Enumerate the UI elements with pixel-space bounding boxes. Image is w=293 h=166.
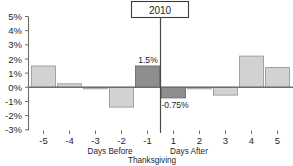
x-axis-label-minus4: -4 — [65, 135, 73, 146]
y-axis-label-1: 1% — [8, 68, 22, 79]
y-axis-label-neg3: -3% — [5, 124, 22, 135]
thanksgiving-returns-bar-chart: 5% 4% 3% 2% 1% 0% -1% -2% -3% — [0, 0, 293, 166]
x-axis-label-minus1: -1 — [143, 135, 151, 146]
x-axis-label-minus3: -3 — [91, 135, 99, 146]
bar-day-minus2[interactable] — [110, 87, 134, 107]
bar-day-plus4[interactable] — [240, 56, 264, 87]
data-label-day-plus1: -0.75% — [161, 100, 189, 110]
x-axis-label-plus4: 4 — [249, 135, 254, 146]
year-callout-label: 2010 — [149, 5, 172, 16]
y-axis-label-4: 4% — [8, 25, 22, 36]
x-axis-caption-holiday: Thanksgiving — [128, 156, 177, 165]
chart-container: 5% 4% 3% 2% 1% 0% -1% -2% -3% — [0, 0, 293, 166]
y-axis-label-3: 3% — [8, 39, 22, 50]
x-axis-label-minus2: -2 — [117, 135, 125, 146]
y-axis-label-5: 5% — [8, 11, 22, 22]
x-axis-label-plus1: 1 — [171, 135, 176, 146]
y-axis-label-2: 2% — [8, 54, 22, 65]
x-axis-label-plus3: 3 — [223, 135, 228, 146]
x-axis-label-plus5: 5 — [275, 135, 280, 146]
x-axis-caption-before: Days Before — [87, 147, 132, 156]
x-axis-label-plus2: 2 — [197, 135, 202, 146]
x-axis-label-minus5: -5 — [39, 135, 47, 146]
x-axis-caption-after: Days After — [170, 147, 208, 156]
y-axis-labels: 5% 4% 3% 2% 1% 0% -1% -2% -3% — [5, 11, 22, 135]
y-axis-label-0: 0% — [8, 82, 22, 93]
y-axis-label-neg1: -1% — [5, 96, 22, 107]
x-axis-labels: -5 -4 -3 -2 -1 1 2 3 4 5 — [39, 135, 280, 146]
y-axis-label-neg2: -2% — [5, 110, 22, 121]
bar-day-minus5[interactable] — [32, 66, 56, 87]
bar-day-plus3[interactable] — [214, 87, 238, 95]
data-label-day-minus1: 1.5% — [138, 55, 158, 65]
bar-day-plus1[interactable] — [162, 87, 186, 98]
bar-day-minus1[interactable] — [136, 66, 160, 87]
bar-day-plus5[interactable] — [266, 68, 290, 88]
